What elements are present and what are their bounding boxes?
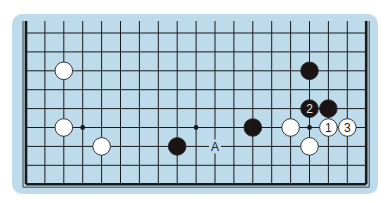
star-point [80,125,85,130]
move-number-label: 3 [344,121,351,135]
marker-label-a: A [211,140,219,154]
star-point [194,125,199,130]
black-stone [168,138,186,156]
white-stone [55,119,73,137]
move-number-label: 2 [306,102,313,116]
white-stone [93,138,111,156]
go-board: A213 [12,14,388,203]
white-stone [301,138,319,156]
move-number-label: 1 [325,121,332,135]
black-stone [301,62,319,80]
white-stone [282,119,300,137]
white-stone [55,62,73,80]
black-stone [244,119,262,137]
star-point [307,125,312,130]
black-stone [320,100,338,118]
go-board-panel: A213 [12,14,378,194]
